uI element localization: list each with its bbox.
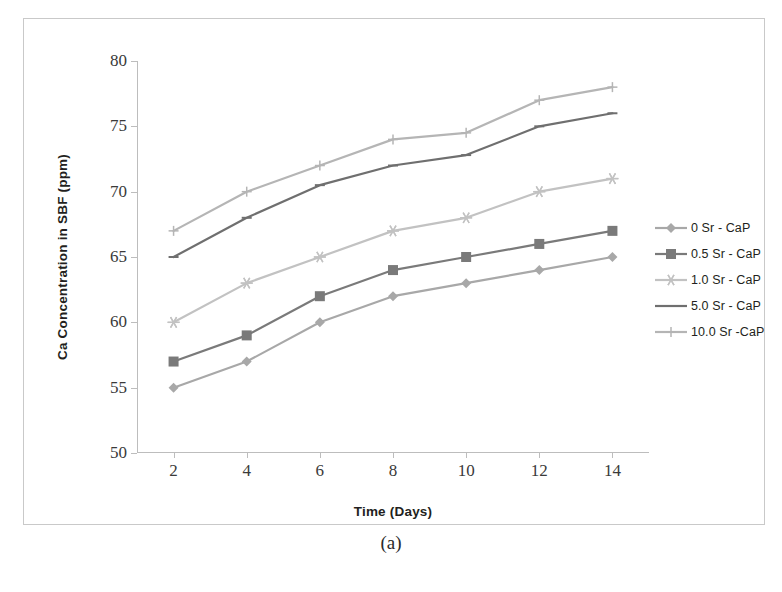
legend-item: 1.0 Sr - CaP <box>654 267 764 293</box>
y-tick-label: 60 <box>110 312 127 332</box>
data-point-marker <box>169 226 179 236</box>
data-point-marker <box>461 278 471 288</box>
legend-item: 0 Sr - CaP <box>654 215 764 241</box>
legend-label: 10.0 Sr -CaP <box>691 325 764 339</box>
legend-marker <box>654 273 688 287</box>
data-point-marker <box>242 187 252 197</box>
series-line <box>174 257 613 388</box>
legend-label: 5.0 Sr - CaP <box>691 299 761 313</box>
data-point-marker <box>169 383 179 393</box>
figure-page: Ca Concentration in SBF (ppm) Time (Days… <box>0 0 782 592</box>
x-tick-label: 2 <box>169 461 178 481</box>
x-tick-label: 12 <box>531 461 548 481</box>
legend-item: 10.0 Sr -CaP <box>654 319 764 345</box>
data-point-marker <box>461 252 471 262</box>
legend-marker <box>654 247 688 261</box>
series-line <box>174 87 613 231</box>
figure-frame: Ca Concentration in SBF (ppm) Time (Days… <box>23 18 765 525</box>
data-point-marker <box>533 186 545 196</box>
legend-marker <box>654 325 688 339</box>
data-point-marker <box>607 82 617 92</box>
data-point-marker <box>388 134 398 144</box>
data-point-marker <box>388 291 398 301</box>
legend-item: 0.5 Sr - CaP <box>654 241 764 267</box>
data-point-marker <box>315 291 325 301</box>
data-point-marker <box>315 161 325 171</box>
data-point-marker <box>314 252 326 262</box>
legend-marker <box>654 299 688 313</box>
plot-area: 50556065707580 2468101214 <box>137 61 649 453</box>
legend-label: 0.5 Sr - CaP <box>691 247 761 261</box>
y-axis-title: Ca Concentration in SBF (ppm) <box>55 154 70 360</box>
data-point-marker <box>168 317 180 327</box>
data-point-marker <box>607 252 617 262</box>
figure-caption: (a) <box>0 532 782 554</box>
data-point-marker <box>666 249 676 259</box>
data-point-marker <box>242 330 252 340</box>
data-point-marker <box>666 327 676 337</box>
x-tick-label: 8 <box>389 461 398 481</box>
data-point-marker <box>169 357 179 367</box>
data-point-marker <box>388 265 398 275</box>
data-point-marker <box>665 275 677 285</box>
series-layer <box>137 61 649 453</box>
data-point-marker <box>534 95 544 105</box>
data-point-marker <box>315 317 325 327</box>
y-tick-label: 70 <box>110 182 127 202</box>
data-point-marker <box>606 173 618 183</box>
x-tick-label: 10 <box>458 461 475 481</box>
y-tick-label: 75 <box>110 116 127 136</box>
x-tick-label: 4 <box>242 461 251 481</box>
data-point-marker <box>387 226 399 236</box>
x-axis-title: Time (Days) <box>354 504 432 519</box>
data-point-marker <box>666 223 676 233</box>
legend-marker <box>654 221 688 235</box>
x-tick-label: 6 <box>316 461 325 481</box>
x-tick-label: 14 <box>604 461 621 481</box>
y-tick-label: 50 <box>110 443 127 463</box>
y-tick-label: 55 <box>110 378 127 398</box>
data-point-marker <box>534 265 544 275</box>
data-point-marker <box>461 128 471 138</box>
y-tick-label: 65 <box>110 247 127 267</box>
legend-item: 5.0 Sr - CaP <box>654 293 764 319</box>
data-point-marker <box>241 278 253 288</box>
data-point-marker <box>607 226 617 236</box>
legend: 0 Sr - CaP0.5 Sr - CaP1.0 Sr - CaP5.0 Sr… <box>654 215 764 345</box>
y-tick-label: 80 <box>110 51 127 71</box>
legend-label: 0 Sr - CaP <box>691 221 750 235</box>
data-point-marker <box>460 213 472 223</box>
legend-label: 1.0 Sr - CaP <box>691 273 761 287</box>
data-point-marker <box>242 357 252 367</box>
y-tick <box>131 453 137 454</box>
data-point-marker <box>534 239 544 249</box>
